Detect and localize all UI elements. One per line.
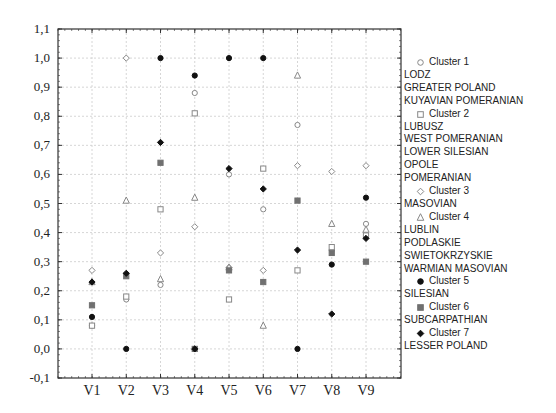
data-point-cluster-4 [329, 220, 335, 226]
data-point-cluster-7 [157, 139, 163, 145]
data-point-cluster-5 [261, 55, 266, 60]
data-point-cluster-3 [363, 163, 369, 169]
y-tick-label: 0,1 [34, 312, 50, 327]
legend-cluster-label: Cluster 5 [429, 275, 469, 288]
data-point-cluster-5 [192, 73, 197, 78]
data-point-cluster-2 [261, 166, 266, 171]
y-tick-label: 0,9 [34, 79, 50, 94]
y-tick-label: -0,1 [29, 370, 50, 385]
legend-cluster-1: Cluster 1 [404, 56, 556, 69]
y-tick-label: 0,5 [34, 196, 50, 211]
data-point-cluster-6 [89, 303, 94, 308]
plot-frame [58, 29, 401, 378]
data-point-cluster-5 [329, 262, 334, 267]
legend-cluster-label: Cluster 4 [429, 211, 469, 224]
legend-member: LUBLIN [404, 224, 556, 237]
square-open-icon [416, 110, 425, 119]
y-tick-label: 1,1 [34, 21, 50, 36]
y-tick-label: 0,7 [34, 137, 51, 152]
legend-cluster-label: Cluster 3 [429, 185, 469, 198]
legend-cluster-label: Cluster 6 [429, 301, 469, 314]
data-point-cluster-6 [363, 259, 368, 264]
data-point-cluster-7 [260, 186, 266, 192]
data-point-cluster-6 [295, 198, 300, 203]
data-point-cluster-7 [294, 247, 300, 253]
circle-open-icon [416, 58, 425, 67]
legend-cluster-label: Cluster 2 [429, 108, 469, 121]
data-point-cluster-5 [226, 55, 231, 60]
legend: Cluster 1LODZGREATER POLANDKUYAVIAN POME… [404, 56, 556, 353]
data-point-cluster-4 [294, 72, 300, 78]
legend-member: SWIETOKRZYSKIE [404, 250, 556, 263]
legend-cluster-2: Cluster 2 [404, 108, 556, 121]
data-point-cluster-2 [89, 323, 94, 328]
data-point-cluster-6 [261, 279, 266, 284]
data-point-cluster-5 [363, 195, 368, 200]
x-tick-label: V6 [255, 383, 272, 398]
legend-cluster-label: Cluster 1 [429, 56, 469, 69]
legend-member: POMERANIAN [404, 172, 556, 185]
x-tick-label: V7 [289, 383, 306, 398]
legend-cluster-6: Cluster 6 [404, 301, 556, 314]
data-point-cluster-1 [226, 172, 231, 177]
square-filled-icon [416, 303, 425, 312]
legend-member: WEST POMERANIAN [404, 133, 556, 146]
y-tick-label: 0,0 [34, 341, 50, 356]
data-point-cluster-2 [295, 268, 300, 273]
legend-member: SUBCARPATHIAN [404, 314, 556, 327]
data-point-cluster-3 [192, 224, 198, 230]
legend-member: GREATER POLAND [404, 82, 556, 95]
data-point-cluster-3 [329, 168, 335, 174]
x-tick-label: V8 [323, 383, 340, 398]
diamond-filled-icon [416, 329, 425, 338]
y-tick-label: 0,4 [34, 225, 51, 240]
axis-ticks [58, 29, 401, 378]
data-point-cluster-3 [157, 250, 163, 256]
x-tick-label: V1 [83, 383, 100, 398]
data-point-cluster-6 [329, 250, 334, 255]
data-point-cluster-4 [260, 322, 266, 328]
legend-member: LESSER POLAND [404, 340, 556, 353]
data-point-cluster-6 [158, 160, 163, 165]
legend-member: LOWER SILESIAN [404, 146, 556, 159]
legend-member: KUYAVIAN POMERANIAN [404, 95, 556, 108]
y-axis-labels: 1,11,00,90,80,70,60,50,40,30,20,10,0-0,1 [29, 21, 50, 385]
data-point-cluster-4 [123, 197, 129, 203]
legend-cluster-4: Cluster 4 [404, 211, 556, 224]
y-tick-label: 0,6 [34, 166, 51, 181]
data-point-cluster-3 [260, 267, 266, 273]
x-tick-label: V5 [220, 383, 237, 398]
data-point-cluster-2 [192, 111, 197, 116]
x-tick-label: V3 [152, 383, 169, 398]
data-point-cluster-2 [124, 294, 129, 299]
legend-cluster-5: Cluster 5 [404, 275, 556, 288]
legend-member: PODLASKIE [404, 237, 556, 250]
grid-lines [58, 29, 401, 378]
data-point-cluster-5 [89, 314, 94, 319]
legend-member: MASOVIAN [404, 198, 556, 211]
data-point-cluster-3 [123, 55, 129, 61]
y-tick-label: 0,8 [34, 108, 50, 123]
x-axis-labels: V1V2V3V4V5V6V7V8V9 [83, 383, 374, 398]
legend-member: OPOLE [404, 159, 556, 172]
data-point-cluster-2 [158, 207, 163, 212]
legend-cluster-label: Cluster 7 [429, 327, 469, 340]
data-point-cluster-6 [226, 268, 231, 273]
x-tick-label: V4 [186, 383, 203, 398]
data-point-cluster-3 [294, 163, 300, 169]
circle-filled-icon [416, 277, 425, 286]
data-point-cluster-3 [89, 267, 95, 273]
data-point-cluster-7 [329, 311, 335, 317]
legend-member: SILESIAN [404, 288, 556, 301]
data-point-cluster-7 [226, 166, 232, 172]
data-point-cluster-1 [192, 90, 197, 95]
legend-cluster-3: Cluster 3 [404, 185, 556, 198]
data-point-cluster-1 [261, 207, 266, 212]
y-tick-label: 0,2 [34, 283, 50, 298]
data-point-cluster-4 [363, 226, 369, 232]
legend-member: LODZ [404, 69, 556, 82]
data-point-cluster-1 [158, 282, 163, 287]
x-tick-label: V2 [118, 383, 135, 398]
triangle-open-icon [416, 213, 425, 222]
data-point-cluster-5 [158, 55, 163, 60]
